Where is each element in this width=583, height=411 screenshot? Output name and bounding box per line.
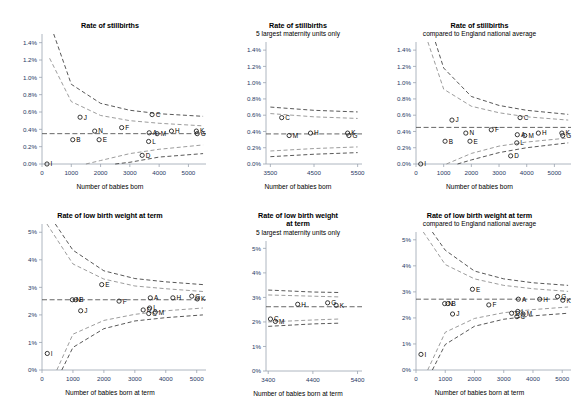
x-tick-label: 4000: [526, 375, 540, 382]
data-point-marker[interactable]: [71, 138, 75, 142]
y-tick-label: 0%: [252, 367, 261, 374]
data-point-marker[interactable]: [100, 283, 104, 287]
data-point-marker[interactable]: [510, 312, 514, 316]
data-point-marker[interactable]: [464, 131, 468, 135]
data-point-marker[interactable]: [147, 140, 151, 144]
y-tick-label: 1.0%: [397, 79, 412, 86]
outer-upper-control-limit: [432, 232, 568, 285]
data-point-label: M: [527, 311, 532, 318]
y-tick-label: 0%: [28, 367, 37, 374]
data-point-label: K: [566, 297, 571, 304]
data-point-marker[interactable]: [487, 303, 491, 307]
data-point-marker[interactable]: [140, 154, 144, 158]
x-tick-label: 2000: [468, 375, 482, 382]
y-tick-label: 0.8%: [247, 96, 262, 103]
data-point-label: B: [449, 138, 453, 145]
plot-area-stillbirths-all: 0.0%0.2%0.4%0.6%0.8%1.0%1.2%1.4%01000200…: [4, 30, 216, 182]
data-point-label: M: [293, 132, 298, 139]
outer-lower-control-limit: [458, 143, 569, 164]
data-point-marker[interactable]: [147, 131, 151, 135]
data-point-label: B: [451, 300, 455, 307]
panel-title: Rate of low birth weight at term: [378, 212, 581, 220]
data-point-marker[interactable]: [171, 296, 175, 300]
outer-lower-control-limit: [62, 315, 203, 370]
data-point-label: M: [159, 309, 164, 316]
data-point-marker[interactable]: [536, 131, 540, 135]
inner-upper-control-limit: [268, 295, 339, 297]
data-point-marker[interactable]: [280, 116, 284, 120]
inner-lower-control-limit: [428, 307, 568, 370]
data-point-marker[interactable]: [489, 128, 493, 132]
data-point-marker[interactable]: [509, 154, 513, 158]
x-axis-title: Number of babies born at term: [4, 389, 216, 396]
x-tick-label: 4000: [159, 375, 173, 382]
data-point-label: F: [495, 127, 499, 134]
data-point-marker[interactable]: [555, 295, 559, 299]
y-tick-label: 0.6%: [23, 109, 38, 116]
data-point-label: C: [524, 114, 529, 121]
data-point-label: F: [123, 298, 127, 305]
x-tick-label: 1000: [438, 375, 452, 382]
data-point-marker[interactable]: [419, 353, 423, 357]
outer-lower-control-limit: [270, 153, 357, 157]
outer-upper-control-limit: [270, 107, 357, 112]
data-point-label: N: [469, 130, 474, 137]
y-tick-label: 1%: [28, 339, 37, 346]
x-tick-label: 3000: [492, 169, 506, 176]
data-point-marker[interactable]: [468, 140, 472, 144]
plot-area-lbw-england: 0%1%2%3%4%5%010002000300040005000INBJEFD…: [378, 228, 581, 388]
data-point-label: H: [175, 128, 180, 135]
data-point-marker[interactable]: [443, 140, 447, 144]
panel-subtitle: 5 largest maternity units only: [224, 30, 372, 38]
y-tick-label: 0.0%: [23, 161, 38, 168]
y-tick-label: 0.2%: [23, 143, 38, 150]
data-point-marker[interactable]: [515, 141, 519, 145]
data-point-marker[interactable]: [141, 308, 145, 312]
data-point-label: C: [285, 114, 290, 121]
data-point-marker[interactable]: [148, 296, 152, 300]
data-point-marker[interactable]: [190, 294, 194, 298]
data-point-marker[interactable]: [515, 133, 519, 137]
data-point-label: J: [456, 117, 459, 124]
data-point-marker[interactable]: [308, 131, 312, 135]
data-point-marker[interactable]: [326, 301, 330, 305]
x-tick-label: 5000: [555, 375, 569, 382]
y-tick-label: 1.0%: [23, 74, 38, 81]
data-point-label: L: [152, 138, 156, 145]
data-point-marker[interactable]: [79, 309, 83, 313]
x-tick-label: 1000: [437, 169, 451, 176]
y-tick-label: 4%: [252, 269, 261, 276]
data-point-marker[interactable]: [450, 118, 454, 122]
funnel-plot-figure: Rate of stillbirths0.0%0.2%0.4%0.6%0.8%1…: [0, 0, 583, 411]
data-point-marker[interactable]: [169, 129, 173, 133]
x-tick-label: 5500: [351, 169, 365, 176]
data-point-label: J: [84, 308, 87, 315]
data-point-marker[interactable]: [268, 317, 272, 321]
data-point-marker[interactable]: [78, 116, 82, 120]
data-point-marker[interactable]: [93, 129, 97, 133]
x-axis-title: Number of babies born: [224, 183, 372, 190]
data-point-marker[interactable]: [470, 288, 474, 292]
data-point-marker[interactable]: [97, 138, 101, 142]
y-tick-label: 5%: [252, 244, 261, 251]
data-point-label: E: [476, 286, 480, 293]
data-point-label: E: [474, 138, 478, 145]
x-tick-label: 5400: [351, 376, 365, 383]
data-point-label: I: [424, 161, 426, 168]
data-point-label: H: [314, 130, 319, 137]
data-point-marker[interactable]: [194, 129, 198, 133]
data-point-marker[interactable]: [45, 352, 49, 356]
panel-lbw-england: Rate of low birth weight at termcompared…: [378, 212, 581, 408]
y-tick-label: 0.0%: [397, 161, 412, 168]
panel-title: Rate of stillbirths: [4, 22, 216, 30]
data-point-label: H: [543, 296, 548, 303]
data-point-marker[interactable]: [450, 312, 454, 316]
outer-lower-control-limit: [432, 314, 568, 371]
data-point-label: N: [98, 128, 103, 135]
data-point-marker[interactable]: [120, 126, 124, 130]
data-point-marker[interactable]: [296, 302, 300, 306]
x-axis-title: Number of babies born at term: [224, 390, 372, 397]
x-tick-label: 3000: [497, 375, 511, 382]
y-tick-label: 0.0%: [247, 161, 262, 168]
y-tick-label: 1%: [402, 341, 411, 348]
